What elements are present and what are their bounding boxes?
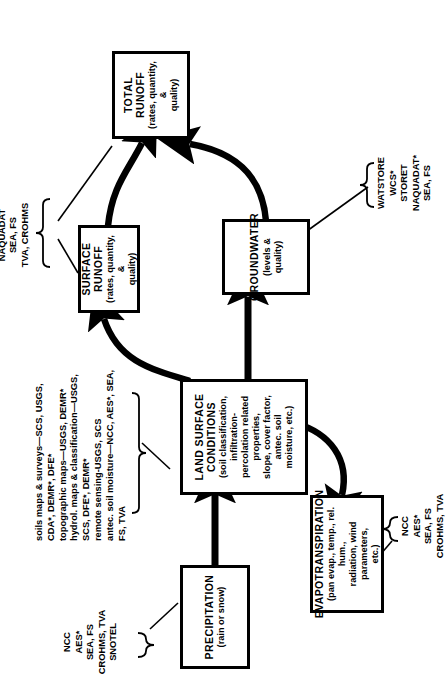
node-evapotranspiration-subtitle: (pan evap., temp., rel. hum., radiation,… (326, 502, 381, 606)
node-land-surface-conditions-title: LAND SURFACE CONDITIONS (193, 386, 218, 488)
leader-runoff-sources-to-total-runoff (58, 146, 112, 221)
brace-evapotranspiration-sources (382, 517, 398, 541)
arrow-surface-runoff-to-total-runoff (108, 143, 142, 226)
node-precipitation-subtitle: (rain or snow) (216, 587, 227, 648)
node-evapotranspiration-title: EVAPOTRANSPIRATION (313, 490, 325, 619)
node-surface-runoff-title: SURFACE RUNOFF (80, 232, 105, 306)
leader-precipitation-sources (150, 603, 178, 629)
node-evapotranspiration[interactable]: EVAPOTRANSPIRATION (pan evap., temp., re… (310, 495, 384, 613)
source-list-groundwater: WATSTORE WCS* STORET NAQUADAT* SEA, FS (376, 137, 434, 229)
arrow-groundwater-to-total-runoff (190, 144, 266, 221)
source-list-evapotranspiration: NCC AES* SEA, FS CROHMS, TVA (400, 479, 446, 573)
leader-runoff-sources-to-surface-runoff (58, 239, 78, 273)
node-groundwater-title: GROUNDWATER (248, 213, 260, 301)
node-precipitation[interactable]: PRECIPITATION (rain or snow) (180, 565, 250, 669)
node-groundwater[interactable]: GROUNDWATER (levels & quality) (222, 219, 310, 295)
node-land-surface-conditions-subtitle: (soil classification, infiltration- perc… (218, 386, 295, 488)
node-surface-runoff[interactable]: SURFACE RUNOFF (rates, quantity, & quali… (78, 225, 140, 313)
node-total-runoff-title: TOTAL RUNOFF (122, 58, 147, 132)
source-list-land-surface: soils maps & surveys—SCS, USGS, CDA*, DE… (34, 345, 128, 541)
brace-precipitation-sources (138, 633, 154, 657)
node-groundwater-subtitle: (levels & quality) (262, 226, 284, 288)
node-total-runoff[interactable]: TOTAL RUNOFF (rates, quantity, & quality… (112, 51, 190, 139)
brace-runoff-sources (36, 199, 50, 267)
source-list-precipitation: NCC AES* SEA, FS CROHMS, TVA SNOTEL (62, 599, 120, 685)
brace-groundwater-sources (360, 163, 374, 207)
source-list-runoff: WATSTORE WSC* STORET NAQUADAT SEA, FS TV… (0, 183, 31, 287)
leader-groundwater-sources (300, 187, 368, 236)
brace-land-surface-sources (132, 393, 146, 513)
leader-land-surface-sources (142, 443, 170, 469)
node-land-surface-conditions[interactable]: LAND SURFACE CONDITIONS (soil classifica… (180, 379, 308, 495)
node-total-runoff-subtitle: (rates, quantity, & quality) (147, 58, 180, 132)
node-surface-runoff-subtitle: (rates, quantity, & quality) (105, 232, 138, 306)
node-precipitation-title: PRECIPITATION (203, 575, 215, 660)
